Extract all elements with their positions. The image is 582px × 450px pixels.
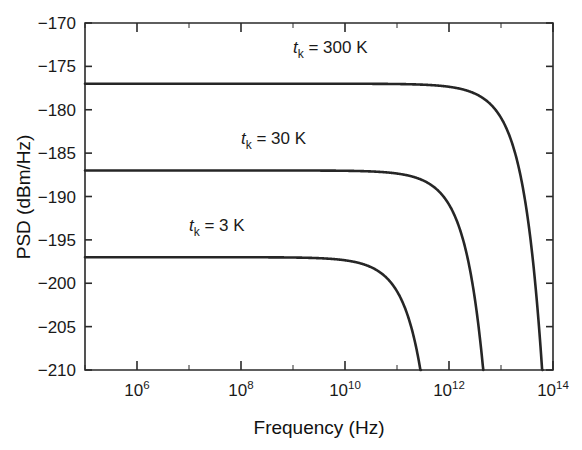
y-tick-label: −205 <box>38 318 76 337</box>
chart-canvas: −170−175−180−185−190−195−200−205−210 106… <box>0 0 582 450</box>
y-tick-label: −185 <box>38 144 76 163</box>
y-tick-label: −170 <box>38 14 76 33</box>
y-axis-title: PSD (dBm/Hz) <box>13 135 34 260</box>
y-tick-label: −200 <box>38 274 76 293</box>
y-tick-label: −180 <box>38 101 76 120</box>
y-tick-label: −195 <box>38 231 76 250</box>
y-tick-label: −175 <box>38 57 76 76</box>
y-axis-tick-labels: −170−175−180−185−190−195−200−205−210 <box>38 14 76 380</box>
y-tick-label: −210 <box>38 361 76 380</box>
chart-background <box>0 0 582 450</box>
y-tick-label: −190 <box>38 188 76 207</box>
psd-vs-frequency-chart: −170−175−180−185−190−195−200−205−210 106… <box>0 0 582 450</box>
x-axis-title: Frequency (Hz) <box>254 417 385 438</box>
